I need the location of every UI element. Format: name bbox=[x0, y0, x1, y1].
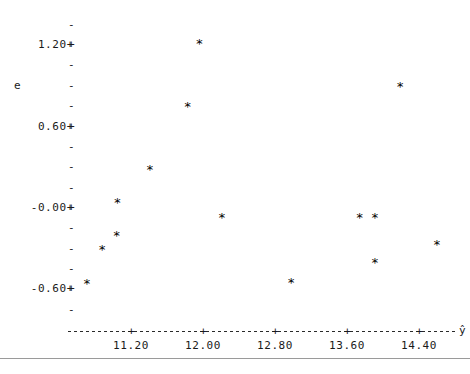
y-axis-minor-tick: - bbox=[68, 59, 75, 70]
y-axis-tick-label: -0.60+ bbox=[14, 283, 74, 294]
x-axis-major-tick: + bbox=[272, 326, 279, 337]
x-axis-tick-label: 13.60 bbox=[317, 340, 377, 351]
y-axis-minor-tick: - bbox=[68, 263, 75, 274]
y-axis-tick-label: 0.60+ bbox=[14, 121, 74, 132]
data-point-marker: * bbox=[195, 38, 204, 49]
data-point-marker: * bbox=[145, 164, 154, 175]
data-point-marker: * bbox=[433, 239, 442, 250]
data-point-marker: * bbox=[370, 212, 379, 223]
y-axis-minor-tick: - bbox=[68, 161, 75, 172]
data-point-marker: * bbox=[82, 278, 91, 289]
y-axis-minor-tick: - bbox=[68, 19, 75, 30]
y-axis-tick-label: 1.20+ bbox=[14, 39, 74, 50]
data-point-marker: * bbox=[370, 257, 379, 268]
y-axis-minor-tick: - bbox=[68, 243, 75, 254]
x-axis-major-tick: + bbox=[200, 326, 207, 337]
data-point-marker: * bbox=[287, 277, 296, 288]
data-point-marker: * bbox=[112, 230, 121, 241]
y-axis-minor-tick: - bbox=[68, 304, 75, 315]
x-axis-tick-label: 12.80 bbox=[245, 340, 305, 351]
data-point-marker: * bbox=[355, 212, 364, 223]
residual-scatter-plot: e -+---+---+---+-1.20+0.60+-0.00+-0.60+ … bbox=[0, 0, 470, 374]
x-axis-major-tick: + bbox=[344, 326, 351, 337]
y-axis-minor-tick: - bbox=[68, 100, 75, 111]
data-point-marker: * bbox=[183, 101, 192, 112]
x-axis-line bbox=[68, 330, 458, 331]
x-axis-label: ŷ bbox=[459, 325, 466, 336]
data-point-marker: * bbox=[217, 212, 226, 223]
x-axis-tick-label: 11.20 bbox=[101, 340, 161, 351]
data-point-marker: * bbox=[98, 244, 107, 255]
data-point-marker: * bbox=[113, 197, 122, 208]
y-axis-minor-tick: - bbox=[68, 222, 75, 233]
y-axis-tick-label: -0.00+ bbox=[14, 202, 74, 213]
y-axis-minor-tick: - bbox=[68, 80, 75, 91]
y-axis-label: e bbox=[14, 80, 21, 91]
bottom-divider bbox=[0, 358, 470, 359]
y-axis-minor-tick: - bbox=[68, 141, 75, 152]
data-point-marker: * bbox=[396, 81, 405, 92]
x-axis-tick-label: 12.00 bbox=[173, 340, 233, 351]
x-axis-tick-label: 14.40 bbox=[389, 340, 449, 351]
x-axis-major-tick: + bbox=[416, 326, 423, 337]
x-axis-major-tick: + bbox=[128, 326, 135, 337]
y-axis-minor-tick: - bbox=[68, 182, 75, 193]
